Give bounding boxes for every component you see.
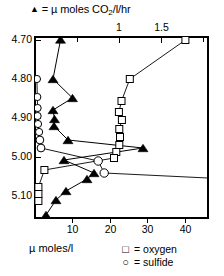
circle-marker-icon: ○ [120,256,131,269]
series-line-co2 [46,40,143,215]
figure-root: ▲ = µ moles CO2/l/hr [0,0,224,276]
bottom-tick-label-30: 30 [137,224,158,235]
legend: □ = oxygen ○ = sulfide [120,243,177,269]
left-tick-label-510: 5.10 [0,190,32,201]
bottom-tick-label-20: 20 [100,224,121,235]
legend-item-oxygen: □ = oxygen [120,243,177,256]
top-tick-label-1: 1 [109,22,129,33]
square-marker-icon: □ [120,243,131,256]
top-tick-label-1-5: 1.5 [149,22,174,33]
bottom-tick-label-40: 40 [175,224,196,235]
bottom-tick-label-10: 10 [62,224,83,235]
left-tick-label-480: 4.80 [0,73,32,84]
markers-sulfide [33,75,108,177]
markers-co2 [41,36,148,219]
legend-label-oxygen: = oxygen [134,243,177,256]
series-tail-sulfide [104,173,208,178]
legend-label-sulfide: = sulfide [134,256,173,269]
series-line-oxygen [38,40,185,201]
x-axis-label: µ moles/l [29,243,73,254]
legend-item-sulfide: ○ = sulfide [120,256,177,269]
left-tick-label-490: 4.90 [0,112,32,123]
left-tick-label-500: 5.00 [0,151,32,162]
bottom-axis-ticks [73,218,186,223]
left-tick-label-470: 4.70 [0,34,32,45]
